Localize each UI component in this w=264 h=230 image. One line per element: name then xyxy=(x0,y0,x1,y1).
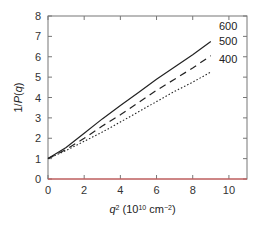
y-tick-label: 1 xyxy=(35,153,41,165)
legend-label-600: 600 xyxy=(219,20,237,32)
x-axis-label: q2 (1010 cm−2) xyxy=(109,203,175,215)
y-tick-label: 2 xyxy=(35,132,41,144)
y-tick-label: 8 xyxy=(35,10,41,22)
x-tick-label: 8 xyxy=(190,184,196,196)
y-tick-label: 3 xyxy=(35,112,41,124)
y-tick-label: 7 xyxy=(35,30,41,42)
x-tick-label: 10 xyxy=(223,184,235,196)
legend-label-400: 400 xyxy=(219,53,237,65)
y-axis-label: 1/P(q) xyxy=(12,83,24,113)
y-tick-label: 4 xyxy=(35,92,41,104)
y-tick-label: 5 xyxy=(35,71,41,83)
x-tick-label: 2 xyxy=(81,184,87,196)
legend-label-500: 500 xyxy=(219,35,237,47)
y-tick-label: 0 xyxy=(35,173,41,185)
series-line-600 xyxy=(48,42,211,159)
y-tick-label: 6 xyxy=(35,51,41,63)
plot-frame xyxy=(48,16,247,179)
x-tick-label: 0 xyxy=(45,184,51,196)
line-chart: 02468100123456786005004001/P(q)q2 (1010 … xyxy=(0,0,264,230)
x-tick-label: 4 xyxy=(117,184,123,196)
x-tick-label: 6 xyxy=(153,184,159,196)
